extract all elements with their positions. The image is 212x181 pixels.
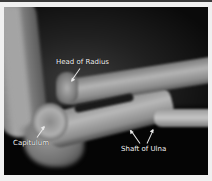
label-capitulum: Capitulum	[13, 139, 49, 147]
arrow-shaft-of-ulna-left	[130, 130, 140, 144]
arrow-shaft-of-ulna-right	[147, 130, 154, 144]
ulna-distal-segment	[154, 109, 208, 127]
frame-top-edge	[0, 0, 212, 2]
xray-image: Head of Radius Capitulum Shaft of Ulna	[4, 7, 208, 175]
label-shaft-of-ulna: Shaft of Ulna	[121, 145, 166, 153]
label-head-of-radius: Head of Radius	[56, 58, 109, 66]
